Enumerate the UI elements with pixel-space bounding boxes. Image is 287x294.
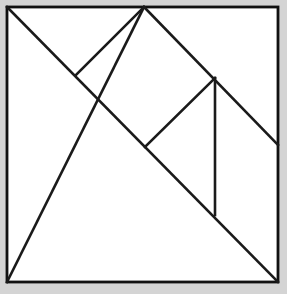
tangram-figure xyxy=(0,0,287,294)
tangram-svg xyxy=(0,0,287,294)
tangram-screenshot xyxy=(0,0,287,294)
